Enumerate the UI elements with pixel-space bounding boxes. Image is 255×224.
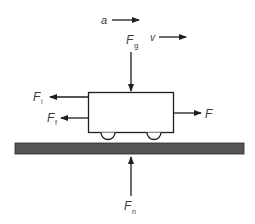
velocity-arrow: v [150,32,186,43]
velocity-label: v [150,32,156,43]
acceleration-arrow: a [101,14,139,26]
gravity-label: F [126,33,134,47]
inertia-label-subscript: i [41,98,43,105]
normal-label-subscript: n [132,208,136,215]
normal-force-arrow: F n [124,157,136,215]
cart-wheel-left [101,133,115,140]
friction-label-subscript: f [55,119,57,126]
free-body-diagram: a v F g F i F f F F n [0,0,255,224]
normal-label: F [124,199,132,213]
applied-force-label: F [205,107,213,121]
acceleration-label: a [101,14,107,26]
inertia-label: F [33,90,41,104]
gravity-label-subscript: g [134,41,138,50]
inertia-force-arrow: F i [33,90,88,105]
ground-surface [15,143,244,154]
cart-body [89,93,174,133]
friction-label: F [47,111,55,125]
cart-wheel-right [147,133,161,140]
friction-force-arrow: F f [47,111,88,126]
gravity-force-arrow: F g [126,33,138,91]
applied-force-arrow: F [174,107,213,121]
